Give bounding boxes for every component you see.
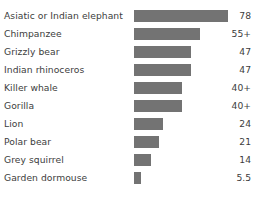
category-label: Grey squirrel — [4, 151, 64, 169]
bar-row: Chimpanzee55+ — [0, 25, 256, 43]
bar — [134, 46, 191, 58]
bar-row: Grizzly bear47 — [0, 43, 256, 61]
bar-row: Lion24 — [0, 115, 256, 133]
category-label: Indian rhinoceros — [4, 61, 84, 79]
bar — [134, 28, 200, 40]
chart-rows: Asiatic or Indian elephant78Chimpanzee55… — [0, 7, 256, 187]
bar — [134, 64, 191, 76]
value-label: 78 — [239, 7, 251, 25]
horizontal-bar-chart: Asiatic or Indian elephant78Chimpanzee55… — [0, 0, 256, 197]
value-label: 24 — [239, 115, 251, 133]
value-label: 47 — [239, 43, 251, 61]
bar-row: Gorilla40+ — [0, 97, 256, 115]
bar-row: Garden dormouse5.5 — [0, 169, 256, 187]
bar — [134, 118, 163, 130]
bar — [134, 100, 182, 112]
bar-track — [134, 136, 228, 148]
category-label: Lion — [4, 115, 23, 133]
bar-row: Grey squirrel14 — [0, 151, 256, 169]
value-label: 47 — [239, 61, 251, 79]
category-label: Polar bear — [4, 133, 51, 151]
bar-track — [134, 64, 228, 76]
bar-row: Polar bear21 — [0, 133, 256, 151]
bar-track — [134, 172, 228, 184]
bar-track — [134, 28, 228, 40]
category-label: Gorilla — [4, 97, 34, 115]
bar — [134, 136, 159, 148]
bar-track — [134, 10, 228, 22]
bar-track — [134, 82, 228, 94]
bar-track — [134, 118, 228, 130]
bar — [134, 172, 141, 184]
value-label: 40+ — [232, 79, 251, 97]
chart-title — [0, 0, 256, 4]
bar — [134, 10, 228, 22]
value-label: 55+ — [232, 25, 251, 43]
category-label: Chimpanzee — [4, 25, 62, 43]
category-label: Garden dormouse — [4, 169, 87, 187]
category-label: Grizzly bear — [4, 43, 60, 61]
value-label: 14 — [239, 151, 251, 169]
bar-row: Killer whale40+ — [0, 79, 256, 97]
bar-track — [134, 154, 228, 166]
bar-row: Indian rhinoceros47 — [0, 61, 256, 79]
category-label: Asiatic or Indian elephant — [4, 7, 123, 25]
category-label: Killer whale — [4, 79, 58, 97]
bar — [134, 82, 182, 94]
value-label: 21 — [239, 133, 251, 151]
value-label: 5.5 — [236, 169, 251, 187]
bar — [134, 154, 151, 166]
value-label: 40+ — [232, 97, 251, 115]
bar-row: Asiatic or Indian elephant78 — [0, 7, 256, 25]
bar-track — [134, 46, 228, 58]
bar-track — [134, 100, 228, 112]
